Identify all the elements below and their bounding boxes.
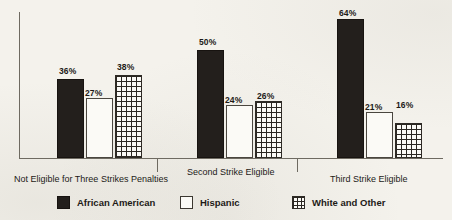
bar-white-and-other-group-2: [255, 101, 282, 158]
bar-white-and-other-group-1: [115, 75, 142, 158]
legend-item-african-american: African American: [57, 196, 155, 209]
legend-label-white-and-other: White and Other: [312, 197, 385, 208]
value-label: 16%: [396, 100, 413, 110]
bar-chart: 36% 27% 38% 50% 24% 26% 64% 21% 16% Not …: [0, 0, 452, 220]
x-axis-line: [19, 158, 443, 159]
x-axis-tick: [297, 159, 298, 172]
category-label-2: Second Strike Eligible: [187, 167, 275, 177]
bar-white-and-other-group-3: [395, 123, 422, 158]
value-label: 26%: [257, 91, 274, 101]
chart-legend: African American Hispanic White and Othe…: [0, 194, 452, 216]
legend-swatch-african-american: [57, 196, 70, 209]
legend-item-hispanic: Hispanic: [180, 196, 240, 209]
legend-swatch-hispanic: [180, 196, 193, 209]
value-label: 27%: [85, 88, 102, 98]
bar-hispanic-group-3: [366, 112, 393, 158]
value-label: 50%: [199, 37, 216, 47]
value-label: 38%: [117, 62, 134, 72]
category-label-1: Not Eligible for Three Strikes Penalties: [14, 174, 168, 184]
value-label: 24%: [225, 95, 242, 105]
legend-item-white-and-other: White and Other: [292, 196, 385, 209]
value-label: 21%: [365, 102, 382, 112]
value-label: 64%: [339, 8, 356, 18]
category-label-3: Third Strike Eligible: [330, 174, 408, 184]
y-axis-line: [19, 12, 20, 159]
bar-african-american-group-3: [337, 19, 364, 158]
bar-african-american-group-2: [197, 50, 224, 158]
legend-swatch-white-and-other: [292, 196, 305, 209]
bar-hispanic-group-2: [226, 105, 253, 158]
x-axis-tick: [157, 159, 158, 172]
value-label: 36%: [59, 66, 76, 76]
legend-label-african-american: African American: [77, 197, 155, 208]
bar-african-american-group-1: [57, 79, 84, 158]
bar-hispanic-group-1: [86, 98, 113, 158]
legend-label-hispanic: Hispanic: [200, 197, 240, 208]
